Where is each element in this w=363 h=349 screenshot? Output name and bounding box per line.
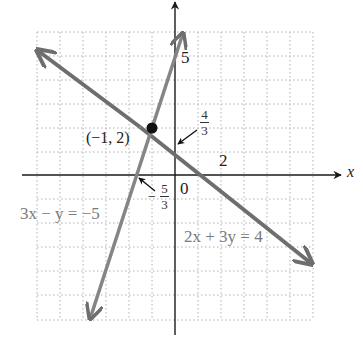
minus-sign: −	[148, 190, 156, 204]
pointer-4-3-arrow	[178, 130, 197, 144]
intersection-point	[147, 123, 158, 134]
fraction-neg-5-3: 5 3	[160, 182, 169, 211]
intersection-point-label: (−1, 2)	[86, 130, 130, 146]
origin-label: 0	[180, 180, 189, 197]
line-2x-plus-3y-eq-4	[37, 50, 140, 127]
fraction-denominator: 3	[201, 124, 208, 137]
fraction-denominator: 3	[161, 198, 168, 211]
fraction-numerator: 5	[161, 182, 168, 195]
equation-label-1: 3x − y = −5	[20, 205, 100, 222]
y-intercept-5-label: 5	[181, 49, 190, 66]
x-axis-label: x	[347, 164, 354, 180]
fraction-numerator: 4	[201, 108, 208, 121]
equation-label-2: 2x + 3y = 4	[184, 228, 263, 245]
x-intercept-2-label: 2	[219, 152, 228, 169]
fraction-4-3: 4 3	[200, 108, 209, 137]
